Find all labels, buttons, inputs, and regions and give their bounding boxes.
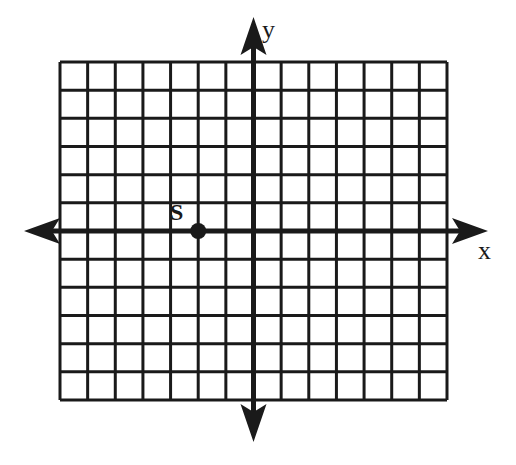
point-s-label: S [170,200,183,224]
point-s [190,223,206,239]
y-axis-label: y [262,17,275,43]
coordinate-plane [0,0,516,465]
x-axis-label: x [478,238,491,264]
points [190,223,206,239]
